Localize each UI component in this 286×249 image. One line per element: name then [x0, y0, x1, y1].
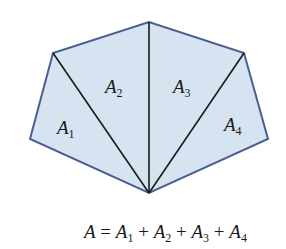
region-label-a4: A4 [224, 115, 242, 137]
hexagon-diagram [0, 0, 286, 249]
region-label-a3: A3 [173, 77, 191, 99]
area-formula: A = A1 + A2 + A3 + A4 [84, 222, 247, 244]
region-label-a1: A1 [57, 118, 75, 140]
region-label-a2: A2 [105, 77, 123, 99]
